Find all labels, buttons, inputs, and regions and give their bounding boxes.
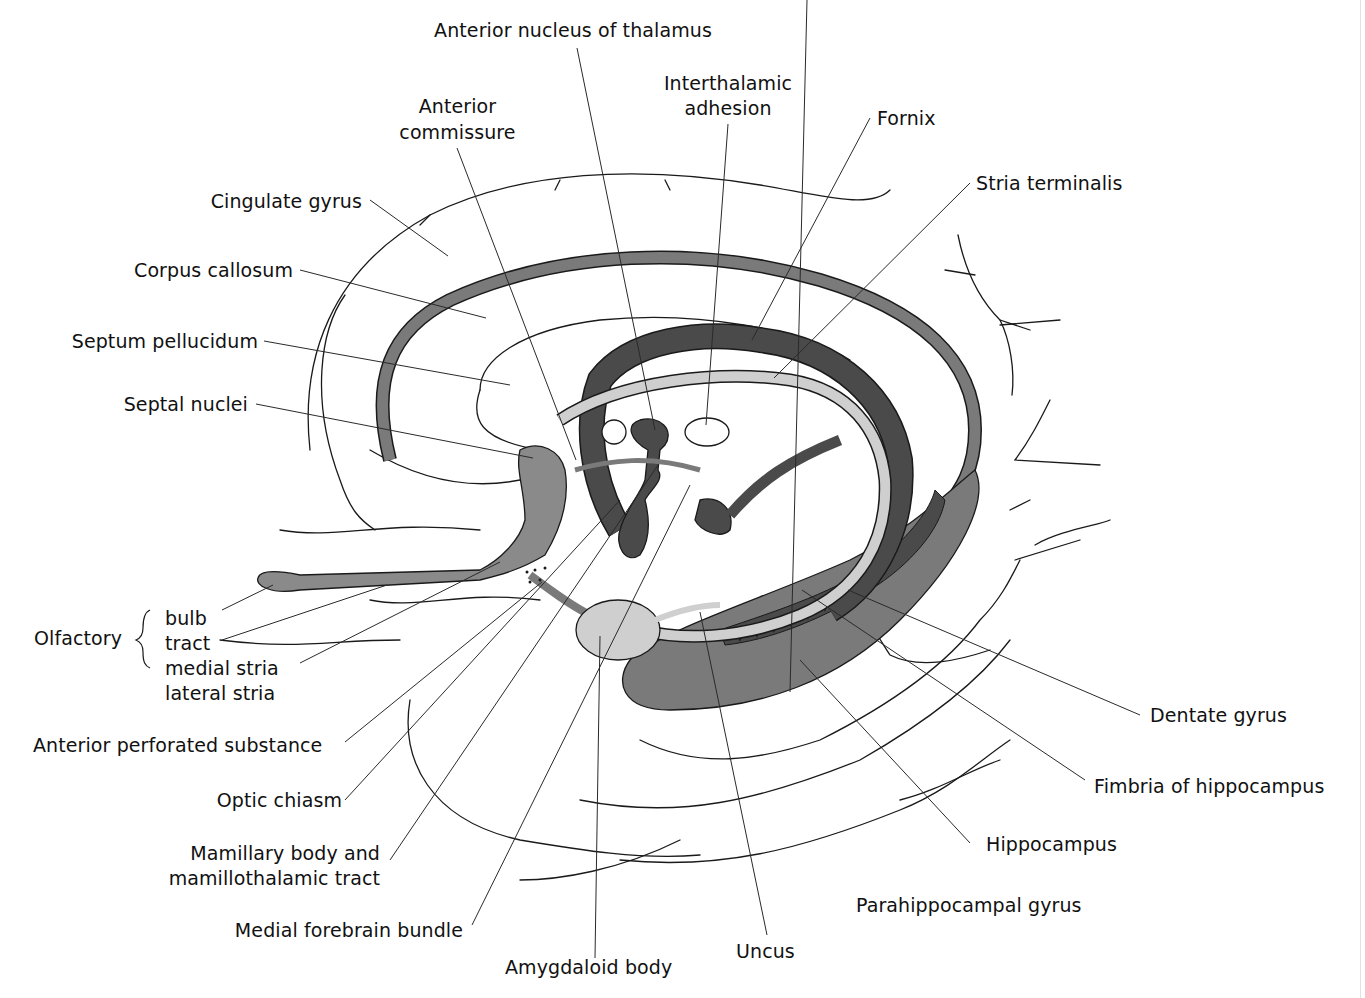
label-interthalamic-adhesion-2: adhesion: [650, 96, 806, 121]
label-interthalamic-adhesion-1: Interthalamic: [650, 71, 806, 96]
label-corpus-callosum: Corpus callosum: [90, 258, 293, 283]
label-septum-pellucidum: Septum pellucidum: [40, 329, 258, 354]
label-mamillary-body-1: Mamillary body and: [120, 841, 380, 866]
label-stria-terminalis: Stria terminalis: [976, 171, 1122, 196]
label-parahippocampal-gyrus: Parahippocampal gyrus: [856, 893, 1082, 918]
label-mamillary-body-2: mamillothalamic tract: [120, 866, 380, 891]
label-olfactory-tract: tract: [165, 631, 210, 656]
anterior-nucleus-thalamus-shape: [619, 419, 668, 558]
leader-lines: [222, 0, 1140, 958]
label-dentate-gyrus: Dentate gyrus: [1150, 703, 1287, 728]
label-amygdaloid-body: Amygdaloid body: [505, 955, 672, 980]
label-fimbria-hippocampus: Fimbria of hippocampus: [1094, 774, 1324, 799]
septal-nuclei-olfactory-shape: [258, 446, 567, 591]
label-optic-chiasm: Optic chiasm: [150, 788, 342, 813]
brain-outlines: [220, 174, 1110, 880]
label-olfactory-medial-stria: medial stria: [165, 656, 279, 681]
olfactory-brace: [136, 610, 150, 668]
label-septal-nuclei: Septal nuclei: [80, 392, 248, 417]
page-edge: [1360, 0, 1361, 998]
label-hippocampus: Hippocampus: [986, 832, 1117, 857]
label-anterior-commissure-1: Anterior: [385, 94, 530, 119]
label-uncus: Uncus: [736, 939, 795, 964]
label-anterior-commissure-2: commissure: [385, 120, 530, 145]
label-anterior-nucleus-thalamus: Anterior nucleus of thalamus: [420, 18, 726, 43]
label-anterior-perforated-substance: Anterior perforated substance: [33, 733, 322, 758]
limbic-system-diagram: Anterior nucleus of thalamus Interthalam…: [0, 0, 1365, 998]
label-olfactory-bulb: bulb: [165, 606, 207, 631]
interthalamic-adhesion-shape: [685, 418, 729, 446]
label-fornix: Fornix: [877, 106, 936, 131]
label-medial-forebrain-bundle: Medial forebrain bundle: [180, 918, 463, 943]
mamillary-body-shape: [695, 499, 731, 534]
label-olfactory: Olfactory: [34, 626, 122, 651]
label-cingulate-gyrus: Cingulate gyrus: [150, 189, 362, 214]
label-olfactory-lateral-stria: lateral stria: [165, 681, 275, 706]
